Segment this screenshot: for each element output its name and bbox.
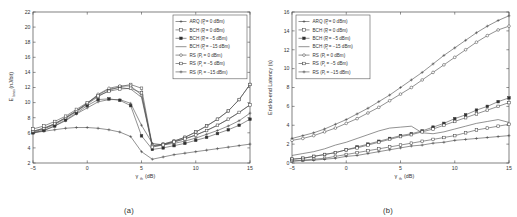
svg-text:14: 14	[284, 28, 290, 34]
figure-container: −5051015246810121416182022γth (dB)Ebnos …	[0, 0, 517, 217]
plot-area-a: −5051015246810121416182022γth (dB)Ebnos …	[0, 0, 258, 200]
svg-text:γ: γ	[395, 173, 398, 179]
svg-text:10: 10	[193, 165, 199, 171]
svg-text:RS (P: RS (P	[313, 61, 325, 66]
svg-text:15: 15	[247, 165, 253, 171]
svg-text:= −5 dBm): = −5 dBm)	[203, 61, 225, 66]
svg-text:RS (P: RS (P	[313, 53, 325, 58]
svg-text:= −15 dBm): = −15 dBm)	[326, 70, 350, 75]
svg-text:th: th	[399, 177, 402, 181]
svg-text:(nJ/bit): (nJ/bit)	[8, 72, 14, 89]
svg-text:14: 14	[25, 69, 31, 75]
svg-text:0: 0	[86, 165, 89, 171]
svg-text:t: t	[204, 22, 205, 26]
svg-text:(dB): (dB)	[145, 173, 155, 179]
svg-text:= 0 dBm): = 0 dBm)	[206, 19, 225, 24]
svg-text:= −5 dBm): = −5 dBm)	[329, 36, 351, 41]
chart-panel-b: −50510150246810121416γth (dB)End-to-end …	[259, 0, 517, 217]
svg-text:2: 2	[287, 141, 290, 147]
svg-text:10: 10	[284, 65, 290, 71]
svg-text:RS (P: RS (P	[190, 61, 202, 66]
svg-text:th: th	[140, 177, 143, 181]
svg-text:8: 8	[28, 115, 31, 121]
svg-text:t: t	[327, 47, 328, 51]
svg-text:5: 5	[399, 165, 402, 171]
plot-area-b: −50510150246810121416γth (dB)End-to-end …	[259, 0, 517, 200]
svg-text:0: 0	[287, 160, 290, 166]
svg-text:= −5 dBm): = −5 dBm)	[326, 61, 348, 66]
chart-panel-a: −5051015246810121416182022γth (dB)Ebnos …	[0, 0, 258, 217]
svg-text:4: 4	[287, 122, 290, 128]
svg-text:RS (P: RS (P	[190, 53, 202, 58]
svg-text:E: E	[8, 98, 14, 102]
panel-caption-a: (a)	[0, 206, 258, 215]
panel-caption-b: (b)	[259, 206, 517, 215]
svg-text:t: t	[204, 38, 205, 42]
svg-text:0: 0	[345, 165, 348, 171]
svg-text:= 0 dBm): = 0 dBm)	[326, 53, 345, 58]
svg-text:6: 6	[28, 130, 31, 136]
svg-text:16: 16	[25, 54, 31, 60]
svg-text:= −5 dBm): = −5 dBm)	[206, 36, 228, 41]
svg-text:t: t	[201, 64, 202, 68]
svg-text:t: t	[204, 30, 205, 34]
svg-text:8: 8	[287, 84, 290, 90]
svg-text:= −15 dBm): = −15 dBm)	[203, 70, 227, 75]
svg-text:= 0 dBm): = 0 dBm)	[329, 19, 348, 24]
svg-text:= 0 dBm): = 0 dBm)	[203, 53, 222, 58]
svg-text:t: t	[327, 22, 328, 26]
svg-text:t: t	[324, 64, 325, 68]
svg-text:t: t	[327, 30, 328, 34]
svg-text:−5: −5	[289, 165, 295, 171]
svg-text:18: 18	[25, 39, 31, 45]
svg-text:t: t	[204, 47, 205, 51]
svg-text:t: t	[201, 55, 202, 59]
svg-text:End-to-end Latency (s): End-to-end Latency (s)	[267, 60, 273, 115]
svg-text:(dB): (dB)	[404, 173, 414, 179]
svg-text:t: t	[201, 72, 202, 76]
svg-text:γ: γ	[136, 173, 139, 179]
svg-text:RS (P: RS (P	[313, 70, 325, 75]
svg-text:t: t	[327, 38, 328, 42]
svg-text:t: t	[324, 72, 325, 76]
svg-text:6: 6	[287, 103, 290, 109]
svg-text:−5: −5	[30, 165, 36, 171]
svg-text:t: t	[324, 55, 325, 59]
svg-text:15: 15	[506, 165, 512, 171]
svg-text:12: 12	[284, 47, 290, 53]
svg-text:RS (P: RS (P	[190, 70, 202, 75]
svg-text:5: 5	[140, 165, 143, 171]
svg-text:12: 12	[25, 84, 31, 90]
svg-text:16: 16	[284, 9, 290, 15]
svg-text:22: 22	[25, 9, 31, 15]
svg-text:= −15 dBm): = −15 dBm)	[206, 44, 230, 49]
svg-text:20: 20	[25, 24, 31, 30]
svg-text:= 0 dBm): = 0 dBm)	[329, 28, 348, 33]
svg-text:2: 2	[28, 160, 31, 166]
svg-text:= −15 dBm): = −15 dBm)	[329, 44, 353, 49]
svg-text:4: 4	[28, 145, 31, 151]
svg-text:10: 10	[25, 99, 31, 105]
svg-text:10: 10	[452, 165, 458, 171]
svg-text:bnos: bnos	[12, 89, 16, 97]
svg-text:= 0 dBm): = 0 dBm)	[206, 28, 225, 33]
